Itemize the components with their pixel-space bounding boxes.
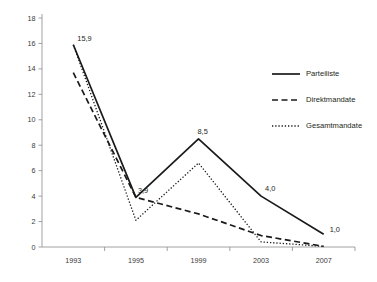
legend-label-parteiliste: Parteiliste [306, 69, 339, 78]
data-label: 4,0 [265, 184, 275, 193]
y-tick-label: 8 [32, 141, 36, 150]
x-tick-label: 1999 [191, 256, 207, 265]
y-tick-label: 6 [32, 166, 36, 175]
chart-canvas: 024681012141618 19931995199920032007 15,… [0, 0, 377, 282]
legend-label-direktmandate: Direktmandate [306, 95, 355, 104]
x-tick-label: 1995 [128, 256, 144, 265]
y-tick-label: 0 [32, 243, 36, 252]
y-tick-label: 4 [32, 192, 36, 201]
data-label: 3,9 [138, 186, 148, 195]
x-axis: 19931995199920032007 [42, 247, 355, 265]
y-tick-label: 16 [28, 39, 36, 48]
line-chart: 024681012141618 19931995199920032007 15,… [0, 0, 377, 282]
series-layer [73, 45, 323, 247]
data-label: 1,0 [330, 225, 340, 234]
x-tick-label: 2007 [316, 256, 332, 265]
legend: ParteilisteDirektmandateGesamtmandate [272, 69, 362, 130]
y-tick-label: 18 [28, 14, 36, 23]
data-labels-layer: 15,93,98,54,01,0 [77, 34, 340, 235]
data-label: 15,9 [77, 34, 91, 43]
y-tick-label: 10 [28, 115, 36, 124]
series-line-gesamtmandate [73, 45, 323, 247]
x-tick-label: 1993 [65, 256, 81, 265]
y-tick-label: 2 [32, 217, 36, 226]
y-tick-label: 12 [28, 90, 36, 99]
y-axis: 024681012141618 [28, 14, 43, 252]
legend-label-gesamtmandate: Gesamtmandate [306, 121, 362, 130]
y-tick-label: 14 [28, 64, 36, 73]
x-tick-label: 2003 [253, 256, 269, 265]
data-label: 8,5 [198, 127, 208, 136]
series-line-direktmandate [73, 73, 323, 247]
